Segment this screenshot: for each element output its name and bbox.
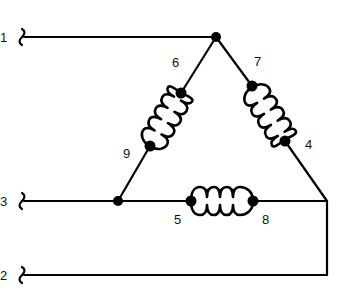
line-1: 1 (0, 29, 216, 45)
terminal-9-node (145, 141, 156, 152)
left-junction-node (113, 196, 123, 206)
terminal-5-node (186, 196, 197, 207)
coil-5-8 (191, 187, 253, 215)
top-to-6-wire (181, 37, 216, 93)
wiring-diagram: 1 3 2 6 7 4 9 5 8 (0, 0, 341, 305)
top-junction-node (211, 32, 221, 42)
terminal-6-node (176, 88, 187, 99)
top-to-7-wire (216, 37, 252, 86)
line-1-label: 1 (0, 30, 7, 45)
terminal-4-node (280, 136, 291, 147)
terminal-6-label: 6 (172, 55, 179, 70)
terminal-8-node (248, 196, 259, 207)
line-3-label: 3 (0, 194, 7, 209)
terminal-7-node (247, 81, 258, 92)
terminal-7-label: 7 (254, 54, 261, 69)
terminal-4-label: 4 (305, 137, 312, 152)
terminal-9-label: 9 (123, 146, 130, 161)
terminal-5-label: 5 (174, 212, 181, 227)
line-3: 3 (0, 193, 191, 209)
line-2-label: 2 (0, 268, 7, 283)
line-2: 2 (0, 201, 327, 283)
terminal-8-label: 8 (262, 212, 269, 227)
